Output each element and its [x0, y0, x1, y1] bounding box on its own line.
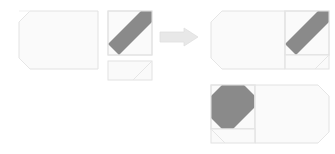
- figure-svg: [0, 0, 335, 154]
- piece-small-rectangle[interactable]: [108, 61, 152, 80]
- assembled-result-bottom[interactable]: [211, 85, 329, 143]
- right-arrow-shape: [160, 28, 198, 46]
- piece-diagonal-square[interactable]: [108, 11, 152, 55]
- piece-large-rectangle[interactable]: [19, 11, 98, 69]
- small-rectangle-body: [108, 61, 152, 80]
- right-arrow: [160, 28, 198, 46]
- result-bottom-large-rectangle: [255, 85, 329, 143]
- result-top-large-rectangle: [211, 11, 285, 69]
- shape-assembly-figure: [0, 0, 335, 154]
- pieces-group: [19, 11, 152, 80]
- assembled-result-top[interactable]: [211, 11, 329, 69]
- large-rectangle-body: [19, 11, 98, 69]
- figure-canvas: [0, 0, 335, 154]
